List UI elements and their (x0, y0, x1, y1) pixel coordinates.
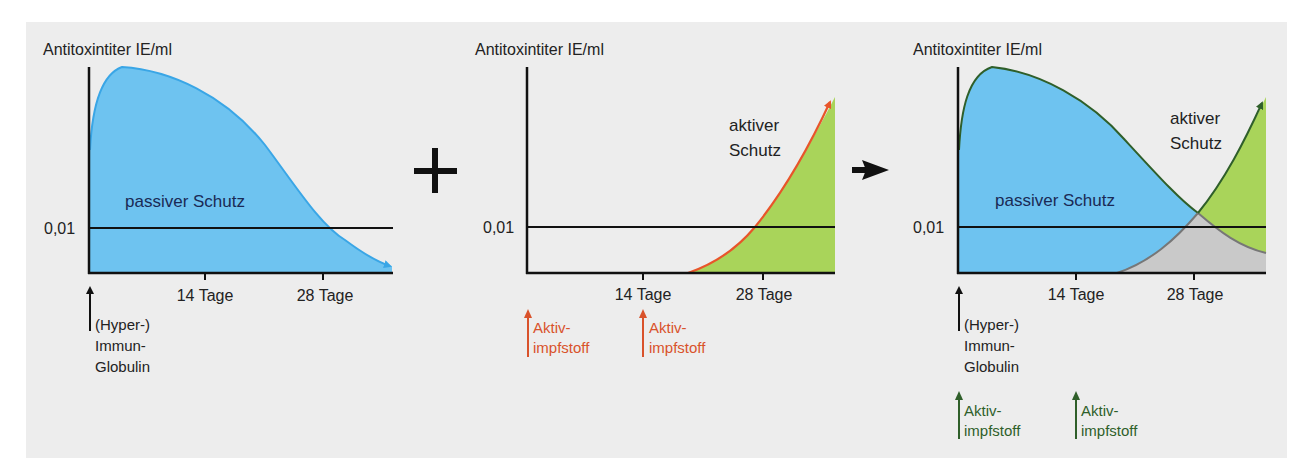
x-tick-label-14: 14 Tage (615, 286, 672, 303)
y-axis-label: Antitoxintiter IE/ml (475, 41, 604, 58)
annotation-immunoglobulin: (Hyper-) Immun- Globulin (964, 316, 1023, 375)
threshold-label: 0,01 (913, 219, 944, 236)
simultaneous-immunization-diagram: Antitoxintiter IE/ml passiver Schutz 0,0… (0, 0, 1303, 473)
y-axis-label: Antitoxintiter IE/ml (913, 41, 1042, 58)
x-tick-label-14: 14 Tage (1048, 286, 1105, 303)
x-tick-label-28: 28 Tage (297, 287, 354, 304)
threshold-label: 0,01 (483, 219, 514, 236)
y-axis-label: Antitoxintiter IE/ml (43, 41, 172, 58)
x-tick-label-28: 28 Tage (736, 286, 793, 303)
threshold-label: 0,01 (44, 220, 75, 237)
area-label-passive: passiver Schutz (125, 192, 245, 211)
annotation-immunoglobulin: (Hyper-) Immun- Globulin (95, 316, 154, 375)
area-label-passive: passiver Schutz (995, 191, 1115, 210)
x-tick-label-28: 28 Tage (1167, 286, 1224, 303)
x-tick-label-14: 14 Tage (177, 287, 234, 304)
